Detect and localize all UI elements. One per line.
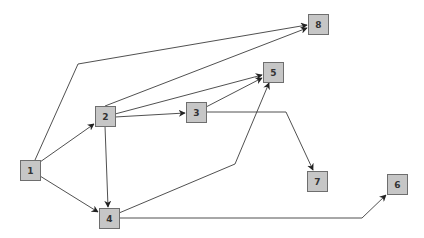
edge-line: [40, 176, 98, 212]
edge-line: [35, 25, 307, 160]
edge-4-to-6[interactable]: [119, 195, 386, 218]
edge-2-to-3[interactable]: [115, 113, 185, 117]
edge-1-to-8[interactable]: [35, 25, 307, 160]
node-5[interactable]: 5: [264, 63, 284, 83]
node-4[interactable]: 4: [100, 209, 120, 229]
edge-line: [119, 195, 386, 218]
edge-2-to-4[interactable]: [105, 126, 108, 207]
edge-3-to-7[interactable]: [206, 112, 313, 170]
node-2[interactable]: 2: [96, 107, 116, 127]
node-label: 6: [394, 180, 400, 190]
node-3[interactable]: 3: [187, 103, 207, 123]
node-label: 4: [106, 214, 112, 224]
node-label: 2: [102, 112, 108, 122]
node-8[interactable]: 8: [309, 15, 329, 35]
node-label: 3: [193, 108, 199, 118]
edge-line: [115, 113, 185, 117]
node-label: 8: [315, 20, 321, 30]
node-label: 5: [270, 68, 276, 78]
node-1[interactable]: 1: [21, 161, 41, 181]
edge-line: [206, 112, 313, 170]
node-6[interactable]: 6: [388, 175, 408, 195]
node-label: 7: [314, 177, 320, 187]
graph-canvas: 12345678: [0, 0, 424, 238]
edge-line: [105, 126, 108, 207]
nodes-layer: 12345678: [21, 15, 408, 229]
edge-1-to-4[interactable]: [40, 176, 98, 212]
edges-layer: [35, 25, 386, 218]
node-7[interactable]: 7: [308, 172, 328, 192]
node-label: 1: [27, 166, 33, 176]
